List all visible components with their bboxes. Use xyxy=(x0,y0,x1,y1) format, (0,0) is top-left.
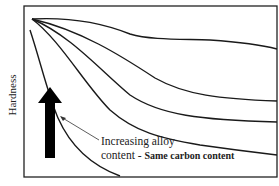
annotation-bold-text: Same carbon content xyxy=(144,150,234,161)
hardness-chart: Hardness Increasing alloy content - Same… xyxy=(0,0,279,186)
curve-2 xyxy=(32,19,277,101)
annotation-prefix: content - xyxy=(101,149,144,161)
y-axis-label: Hardness xyxy=(5,73,19,117)
annotation-leader-line xyxy=(61,117,99,140)
leader-arrowhead-icon xyxy=(60,116,66,121)
increasing-alloy-arrow-icon xyxy=(38,87,62,158)
curve-3 xyxy=(32,19,277,122)
annotation-line-2: content - Same carbon content xyxy=(101,149,234,162)
curve-1 xyxy=(32,19,277,49)
annotation-line-1: Increasing alloy xyxy=(101,135,175,148)
